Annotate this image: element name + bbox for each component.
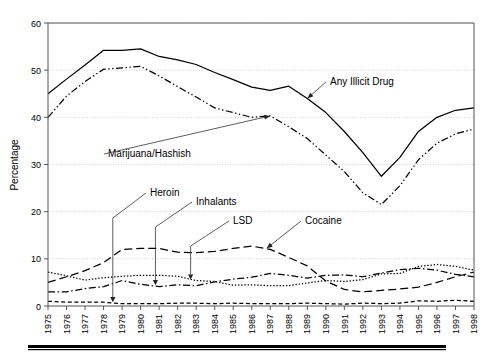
x-tick-label: 1979 [117,314,127,334]
drug-use-trend-line-chart: 0102030405060 19751976197719781979198019… [0,0,499,356]
x-tick-label: 1981 [154,314,164,334]
x-tick-label: 1991 [340,314,350,334]
x-tick-label: 1990 [321,314,331,334]
x-tick-label: 1992 [358,314,368,334]
annotation-label-marijuana-hashish: Marijuana/Hashish [108,148,191,159]
annotation-label-inhalants: Inhalants [196,196,237,207]
x-tick-label: 1977 [80,314,90,334]
x-tick-label: 1978 [99,314,109,334]
x-tick-label: 1975 [43,314,53,334]
x-tick-label: 1987 [265,314,275,334]
annotation-label-cocaine: Cocaine [305,215,342,226]
y-axis-title: Percentage [9,139,20,191]
x-axis-ticks: 1975197619771978197919801981198219831984… [43,306,479,334]
y-axis-ticks: 0102030405060 [31,19,48,312]
x-tick-label: 1997 [451,314,461,334]
bottom-rule [28,345,446,348]
x-tick-label: 1996 [432,314,442,334]
x-tick-label: 1986 [247,314,257,334]
chart-figure: 0102030405060 19751976197719781979198019… [0,0,499,356]
x-tick-label: 1982 [173,314,183,334]
x-tick-label: 1998 [469,314,479,334]
x-tick-label: 1989 [303,314,313,334]
annotation-label-any-illicit-drug: Any Illicit Drug [330,76,394,87]
x-tick-label: 1984 [210,314,220,334]
y-tick-label: 50 [31,66,41,76]
annotation-label-heroin: Heroin [150,187,179,198]
y-tick-label: 40 [31,113,41,123]
x-tick-label: 1976 [62,314,72,334]
y-tick-label: 60 [31,19,41,29]
y-tick-label: 0 [36,302,41,312]
y-tick-label: 20 [31,207,41,217]
bottom-rule-shadow [28,349,446,350]
x-tick-label: 1983 [191,314,201,334]
y-tick-label: 10 [31,254,41,264]
x-tick-label: 1995 [414,314,424,334]
x-tick-label: 1993 [377,314,387,334]
x-tick-label: 1994 [395,314,405,334]
x-tick-label: 1988 [284,314,294,334]
y-tick-label: 30 [31,160,41,170]
annotation-label-lsd: LSD [233,215,252,226]
x-tick-label: 1980 [136,314,146,334]
x-tick-label: 1985 [228,314,238,334]
